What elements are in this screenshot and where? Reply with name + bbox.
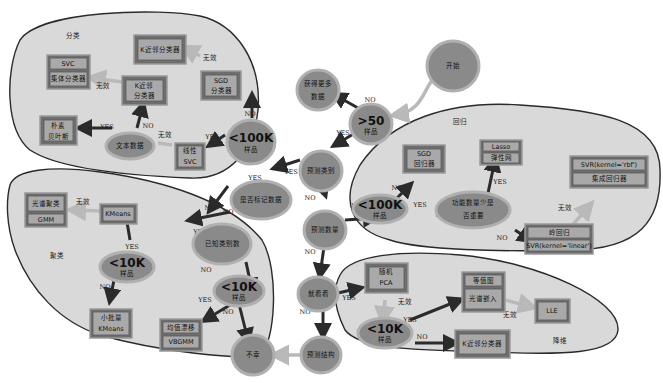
svg-text:NO: NO — [204, 204, 215, 212]
box-kneighbors-dim[interactable]: K近邻分类器 — [455, 330, 510, 358]
svg-text:等值图: 等值图 — [473, 276, 494, 285]
node-few-features[interactable]: 功能数量少是 否重要 — [436, 192, 510, 228]
svg-text:无效: 无效 — [76, 197, 90, 206]
svg-text:<10K: <10K — [221, 280, 258, 294]
box-kneighbors-classifier[interactable]: K近邻分类器 — [134, 35, 186, 64]
svg-text:<100K: <100K — [229, 131, 274, 145]
svg-text:样品: 样品 — [120, 269, 134, 278]
svg-text:SVC: SVC — [61, 60, 75, 68]
region-label-regression: 回归 — [453, 117, 467, 126]
svg-text:不幸: 不幸 — [246, 351, 260, 359]
svg-text:>50: >50 — [358, 114, 385, 128]
svg-text:<10K: <10K — [109, 256, 146, 270]
svg-text:贝叶斯: 贝叶斯 — [48, 132, 69, 141]
svg-text:K近邻分类器: K近邻分类器 — [140, 45, 179, 54]
node-gt50-samples[interactable]: >50 样品 — [350, 104, 392, 144]
svg-text:YES: YES — [204, 133, 219, 141]
svg-text:YES: YES — [124, 243, 139, 251]
node-get-more-data[interactable]: 获得更多 数据 — [297, 70, 339, 110]
svg-text:获得更多: 获得更多 — [304, 79, 332, 88]
svg-text:小批量: 小批量 — [101, 313, 122, 322]
svg-text:SVR(kernel='rbf'): SVR(kernel='rbf') — [581, 161, 637, 169]
svg-text:SVR(kernel='linear'): SVR(kernel='linear') — [526, 242, 592, 250]
svg-text:NO: NO — [142, 122, 153, 130]
svg-text:样品: 样品 — [378, 335, 392, 344]
box-svr-rbf-ensemble[interactable]: SVR(kernel='rbf') 集成回归器 — [570, 156, 648, 188]
node-just-looking[interactable]: 就看看 — [298, 277, 338, 311]
svg-text:数据: 数据 — [311, 92, 325, 101]
node-clu-lt10k-a[interactable]: <10K 样品 — [100, 252, 154, 282]
box-ridge-svr-linear[interactable]: 岭回归 SVR(kernel='linear') — [525, 224, 593, 254]
svg-text:分类器: 分类器 — [134, 91, 155, 100]
node-predict-structure[interactable]: 预测结构 — [301, 337, 341, 373]
svg-text:开始: 开始 — [446, 61, 460, 70]
node-predict-quantity[interactable]: 预测数量 — [304, 211, 346, 249]
svg-text:LLE: LLE — [546, 307, 557, 315]
svg-text:SGD: SGD — [417, 150, 431, 158]
node-predict-category[interactable]: 预测类别 — [300, 151, 342, 191]
node-known-categories[interactable]: 已知类别数 — [193, 224, 251, 264]
svg-text:K近邻: K近邻 — [135, 81, 153, 90]
svg-text:VBGMM: VBGMM — [168, 338, 193, 346]
box-meanshift-vbgmm[interactable]: 均值漂移 VBGMM — [160, 319, 202, 351]
svg-text:样品: 样品 — [373, 211, 387, 220]
svg-text:NO: NO — [391, 184, 402, 192]
svg-text:预测类别: 预测类别 — [307, 166, 335, 175]
box-naive-bayes[interactable]: 朴素 贝叶斯 — [40, 116, 77, 145]
node-cls-lt100k[interactable]: <100K 样品 — [227, 120, 275, 164]
box-sgd-classifier[interactable]: SGD 分类器 — [201, 71, 241, 100]
svg-text:是否标记数据: 是否标记数据 — [240, 195, 282, 204]
svg-text:集成回归器: 集成回归器 — [592, 174, 627, 183]
svg-text:否重要: 否重要 — [463, 212, 484, 220]
box-randomized-pca[interactable]: 随机 PCA — [365, 263, 408, 293]
box-lasso-elasticnet[interactable]: Lasso 弹性网 — [480, 140, 522, 165]
node-tough-luck[interactable]: 不幸 — [232, 335, 274, 375]
svg-text:无效: 无效 — [398, 297, 412, 306]
svg-text:Lasso: Lasso — [492, 143, 510, 151]
node-dim-lt10k[interactable]: <10K 样品 — [358, 318, 412, 348]
svg-text:无效: 无效 — [203, 53, 217, 62]
svg-text:<10K: <10K — [367, 322, 404, 336]
node-start[interactable]: 开始 — [427, 41, 479, 91]
node-text-data[interactable]: 文本数据 — [106, 133, 154, 159]
box-minibatch-kmeans[interactable]: 小批量 KMeans — [90, 309, 132, 338]
node-clu-lt10k-b[interactable]: <10K 样品 — [214, 276, 264, 306]
node-reg-lt100k[interactable]: <100K 样品 — [353, 195, 407, 223]
box-isomap-spectral-embedding[interactable]: 等值图 光谱嵌入 — [462, 272, 505, 312]
svg-text:线性: 线性 — [183, 146, 197, 155]
svg-text:YES: YES — [341, 294, 356, 302]
box-sgd-regressor[interactable]: SGD 回归器 — [403, 145, 445, 173]
svg-text:<100K: <100K — [358, 198, 403, 212]
ml-cheat-sheet-diagram: 分类 回归 聚类 降维 — [0, 0, 663, 383]
svg-text:SGD: SGD — [214, 77, 228, 85]
region-label-classification: 分类 — [66, 31, 80, 40]
box-kneighbors-classifier-2[interactable]: K近邻 分类器 — [122, 76, 167, 105]
svg-text:NO: NO — [222, 208, 233, 216]
node-labeled-data[interactable]: 是否标记数据 — [231, 181, 291, 219]
svg-text:NO: NO — [364, 96, 375, 104]
svg-text:PCA: PCA — [380, 279, 393, 287]
svg-text:样品: 样品 — [232, 293, 246, 302]
diagram-svg: 分类 回归 聚类 降维 — [0, 0, 663, 383]
svg-text:NO: NO — [416, 333, 427, 341]
svg-text:样品: 样品 — [244, 145, 258, 154]
box-linear-svc[interactable]: 线性 SVC — [175, 143, 205, 170]
svg-text:YES: YES — [197, 296, 212, 304]
svg-text:YES: YES — [335, 129, 350, 137]
svg-text:无效: 无效 — [96, 81, 110, 90]
svg-text:文本数据: 文本数据 — [116, 141, 144, 150]
svg-text:GMM: GMM — [38, 216, 54, 224]
svg-text:无效: 无效 — [158, 130, 172, 139]
svg-text:弹性网: 弹性网 — [491, 153, 512, 162]
svg-text:NO: NO — [244, 110, 255, 118]
box-svc-ensemble[interactable]: SVC 集体分类器 — [47, 55, 90, 89]
svg-text:预测数量: 预测数量 — [311, 225, 339, 234]
box-lle[interactable]: LLE — [535, 299, 570, 323]
box-kmeans[interactable]: KMeans — [100, 204, 137, 224]
svg-text:YES: YES — [283, 168, 298, 176]
svg-text:分类器: 分类器 — [211, 86, 232, 95]
svg-text:KMeans: KMeans — [105, 210, 131, 218]
box-spectral-gmm[interactable]: 光谱聚类 GMM — [25, 193, 67, 227]
svg-text:已知类别数: 已知类别数 — [205, 239, 240, 248]
svg-text:光谱嵌入: 光谱嵌入 — [469, 294, 497, 303]
